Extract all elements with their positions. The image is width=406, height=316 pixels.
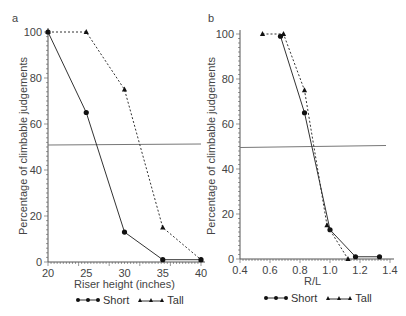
data-point-tall (160, 225, 165, 230)
data-point-short (377, 254, 382, 259)
data-point-short (353, 254, 358, 259)
panel-a-x-axis-title: Riser height (inches) (74, 278, 175, 290)
legend-tall-label: Tall (167, 294, 184, 306)
panel-a-y-axis-title: Percentage of climbable judgements (17, 56, 29, 236)
panel-b-x-tick-label: 1.0 (322, 264, 337, 276)
panel-a-y-tick-label: 20 (30, 210, 42, 222)
data-point-short (84, 110, 89, 115)
panel-a-series-short (48, 32, 201, 260)
panel-a-series-tall (48, 32, 201, 260)
panel-a-x-tick-label: 40 (195, 267, 207, 279)
legend-short-label: Short (291, 292, 317, 304)
short-series-swatch-icon (76, 296, 100, 304)
panel-b-y-axis-title: Percentage of climbable judgements (205, 56, 217, 236)
panel-a-legend: Short Tall (76, 294, 184, 306)
panel-b-legend: Short Tall (264, 292, 372, 304)
short-series-swatch-icon (264, 294, 288, 302)
legend-short-label: Short (103, 294, 129, 306)
panel-a-y-tick-label: 100 (24, 26, 42, 38)
panel-b-x-tick-label: 0.6 (262, 264, 277, 276)
data-point-tall (281, 31, 286, 36)
panel-b-x-tick-label: 1.4 (382, 264, 397, 276)
panel-b-y-tick-label: 100 (216, 28, 234, 40)
data-point-short (160, 257, 165, 262)
data-point-short (302, 110, 307, 115)
panel-a-x-tick-label: 20 (42, 267, 54, 279)
panel-a-y-tick-label: 40 (30, 164, 42, 176)
panel-b-y-tick-label: 20 (222, 208, 234, 220)
panel-b-reference-line (240, 146, 386, 148)
data-point-short (122, 230, 127, 235)
panel-a-label: a (12, 12, 18, 24)
chart-canvas: 02040608010020253035400204060801000.40.6… (0, 0, 406, 316)
panel-b-x-tick-label: 1.2 (352, 264, 367, 276)
panel-b-y-tick-label: 80 (222, 73, 234, 85)
panel-b-y-tick-label: 40 (222, 163, 234, 175)
panel-a-y-tick-label: 60 (30, 118, 42, 130)
panel-b-label: b (208, 12, 214, 24)
panel-b-x-tick-label: 0.4 (232, 264, 247, 276)
panel-a-y-tick-label: 80 (30, 72, 42, 84)
tall-series-swatch-icon (326, 294, 352, 302)
legend-tall-label: Tall (355, 292, 372, 304)
panel-b-y-tick-label: 60 (222, 118, 234, 130)
data-point-tall (302, 87, 307, 92)
panel-b-x-axis-title: R/L (304, 275, 321, 287)
panel-a-reference-line (48, 144, 201, 145)
tall-series-swatch-icon (138, 296, 164, 304)
